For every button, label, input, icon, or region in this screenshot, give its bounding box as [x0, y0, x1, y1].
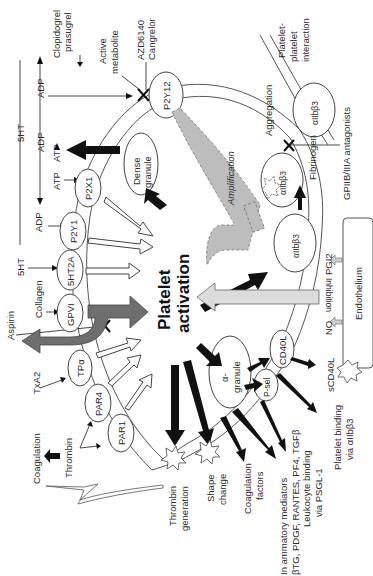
platelet-activation-diagram: Endothelium 5HT ADP ADP ATP ATP ADP 5HT … [0, 0, 373, 576]
x-mark-gp2b3a-icon [284, 140, 294, 151]
receptor-par4: PAR4 [85, 384, 111, 422]
svg-text:Platelet: Platelet [155, 269, 174, 330]
svg-text:sCD40L: sCD40L [325, 358, 336, 392]
endothelium: Endothelium [343, 218, 373, 368]
svg-text:via PSGL-1: via PSGL-1 [313, 468, 324, 517]
svg-text:metabolite: metabolite [109, 30, 120, 74]
svg-text:Shape: Shape [205, 475, 216, 502]
svg-text:AZD6140: AZD6140 [135, 20, 146, 60]
svg-text:Active: Active [97, 38, 108, 64]
svg-text:Aspirin: Aspirin [5, 311, 16, 340]
svg-text:5HT: 5HT [15, 258, 26, 276]
svg-text:NO: NO [323, 321, 334, 335]
svg-text:Amplification: Amplification [225, 151, 236, 206]
svg-text:change: change [217, 474, 228, 505]
svg-text:Clopidogrel: Clopidogrel [51, 10, 62, 58]
svg-text:Platelet-: Platelet- [276, 23, 287, 58]
receptor-tpa: TPα [68, 350, 92, 386]
svg-text:α-: α- [219, 373, 230, 382]
svg-text:In ammatory mediators: In ammatory mediators [278, 478, 289, 575]
svg-text:Platelet binding: Platelet binding [332, 405, 343, 470]
dense-granule: Dense granule [124, 133, 158, 195]
receptor-par1: PAR1 [108, 414, 134, 452]
svg-text:ADP: ADP [35, 132, 46, 152]
svg-text:granule: granule [231, 361, 242, 393]
svg-text:Inhibition: Inhibition [324, 278, 334, 312]
starburst-thrombin-icon [161, 446, 186, 470]
svg-text:PAR1: PAR1 [116, 421, 127, 445]
platelet-activation-title: Platelet activation [155, 254, 193, 333]
svg-text:Coagulation: Coagulation [31, 433, 42, 484]
coagulation-feedback-arrow [46, 484, 163, 504]
outcome-labels: Fibrinogen sCD40L Platelet binding via α… [167, 135, 355, 575]
svg-text:ATP: ATP [51, 172, 62, 190]
svg-text:ADP: ADP [35, 78, 46, 98]
svg-text:βTG, PDGF, RANTES, PF4, TGFβ: βTG, PDGF, RANTES, PF4, TGFβ [290, 429, 301, 575]
svg-text:Coagulation: Coagulation [242, 463, 253, 514]
svg-text:P2X1: P2X1 [83, 177, 94, 200]
receptor-gpvi: GPVI [57, 294, 83, 332]
svg-text:Thrombin: Thrombin [63, 438, 74, 478]
receptor-p2x1: P2X1 [75, 169, 101, 207]
svg-text:PAR4: PAR4 [93, 392, 104, 416]
svg-text:Aggregation: Aggregation [263, 85, 274, 136]
open-arrows [86, 197, 153, 410]
svg-text:platelet: platelet [288, 31, 299, 62]
svg-text:Dense: Dense [131, 158, 142, 185]
svg-text:GPIIB/IIIA antagonists: GPIIB/IIIA antagonists [341, 107, 352, 200]
svg-text:generation: generation [179, 486, 190, 531]
svg-text:5HT2A: 5HT2A [65, 256, 76, 286]
svg-text:PGI2: PGI2 [323, 253, 334, 275]
svg-text:P2Y12: P2Y12 [161, 81, 172, 110]
svg-text:via αIIbβ3: via αIIbβ3 [344, 418, 355, 460]
svg-text:αIIbβ3: αIIbβ3 [291, 234, 301, 258]
svg-text:αIIbβ3: αIIbβ3 [278, 171, 288, 195]
svg-text:P-sel: P-sel [262, 378, 272, 397]
starburst-shape-icon [195, 440, 220, 464]
svg-text:CD40L: CD40L [277, 335, 288, 365]
receptor-cd40l: CD40L [270, 330, 294, 368]
svg-text:granule: granule [142, 156, 153, 188]
svg-text:GPVI: GPVI [65, 303, 76, 326]
svg-text:TxA2: TxA2 [31, 372, 42, 394]
alpha-granule: α- granule [209, 336, 251, 408]
svg-text:activation: activation [174, 254, 193, 333]
svg-text:P2Y1: P2Y1 [68, 220, 79, 243]
receptor-aiib-top: αIIbβ3 [293, 83, 335, 137]
svg-text:TPα: TPα [75, 359, 86, 377]
x-mark-p2y12-icon [138, 89, 149, 101]
svg-text:Collagen: Collagen [33, 281, 44, 319]
svg-text:ADP: ADP [33, 212, 44, 232]
svg-text:factors: factors [254, 471, 265, 500]
svg-text:Endothelium: Endothelium [353, 267, 364, 320]
svg-text:Leukocyte binding: Leukocyte binding [301, 450, 312, 527]
svg-text:Cangrelor: Cangrelor [146, 18, 157, 60]
inhibition-arrow: Inhibition NO PGI2 [197, 253, 342, 335]
label-5ht-top: 5HT [15, 124, 26, 142]
svg-text:interaction: interaction [300, 18, 311, 62]
svg-text:prasugrel: prasugrel [62, 12, 73, 52]
receptor-5ht2a: 5HT2A [57, 250, 83, 290]
svg-text:Fibrinogen: Fibrinogen [307, 135, 318, 180]
receptor-aiib-low: αIIbβ3 [274, 214, 316, 272]
svg-text:Thrombin: Thrombin [167, 486, 178, 526]
receptor-p2y1: P2Y1 [60, 212, 86, 250]
svg-text:αIIbβ3: αIIbβ3 [310, 101, 320, 125]
